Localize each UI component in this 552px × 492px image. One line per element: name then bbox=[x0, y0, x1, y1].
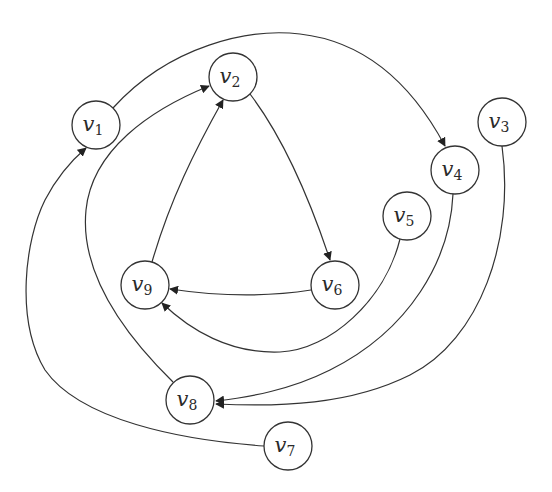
edge-v1-to-v4 bbox=[113, 33, 445, 146]
edge-v9-to-v2 bbox=[152, 100, 223, 262]
edge-v2-to-v6 bbox=[250, 94, 330, 260]
node-v4: v4 bbox=[431, 146, 479, 194]
node-v7: v7 bbox=[264, 422, 312, 470]
node-v3: v3 bbox=[478, 98, 526, 146]
node-v5: v5 bbox=[383, 192, 431, 240]
directed-graph: v1v2v3v4v5v6v7v8v9 bbox=[0, 0, 552, 492]
edge-v6-to-v9 bbox=[170, 289, 311, 295]
node-v9: v9 bbox=[121, 261, 169, 309]
edges-layer bbox=[26, 33, 505, 446]
node-v1: v1 bbox=[72, 101, 120, 149]
node-v6: v6 bbox=[311, 261, 359, 309]
node-v2: v2 bbox=[209, 53, 257, 101]
edge-v5-to-v9 bbox=[162, 239, 400, 352]
nodes-layer: v1v2v3v4v5v6v7v8v9 bbox=[72, 53, 526, 470]
node-v8: v8 bbox=[166, 376, 214, 424]
